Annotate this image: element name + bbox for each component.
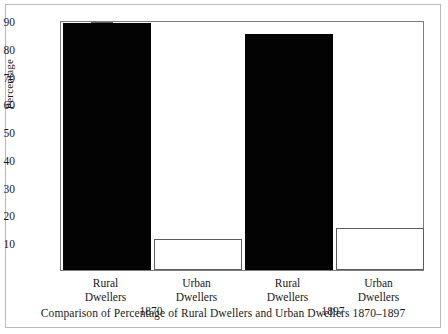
y-tick-label: 60 (0, 97, 15, 113)
y-tick-label: 70 (0, 70, 15, 86)
plot-area: 102030405060708090 (60, 21, 424, 271)
bar-rural-dwellers-1897[interactable] (245, 34, 333, 270)
bar-urban-dwellers-1870[interactable] (154, 239, 242, 270)
bar-urban-dwellers-1897[interactable] (336, 228, 424, 270)
y-tick-label: 80 (0, 42, 15, 58)
y-tick-label: 20 (0, 208, 15, 224)
y-tick-label: 30 (0, 181, 15, 197)
category-label-line1: Urban (319, 276, 439, 290)
category-label-line2: Dwellers (319, 290, 439, 304)
figure-frame: Percentage 102030405060708090 RuralDwell… (5, 4, 441, 328)
bar-rural-dwellers-1870[interactable] (63, 23, 151, 270)
figure-caption: Comparison of Percentage of Rural Dwelle… (6, 307, 440, 319)
y-tick-label: 90 (0, 14, 15, 30)
category-label: UrbanDwellers (319, 276, 439, 304)
y-tick-label: 10 (0, 236, 15, 252)
y-tick-label: 50 (0, 125, 15, 141)
y-tick-label: 40 (0, 153, 15, 169)
